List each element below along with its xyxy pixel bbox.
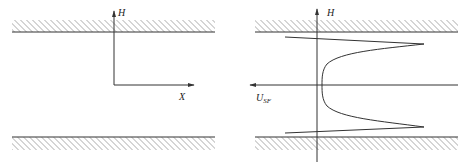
channel-flow-diagram: H X H USF [0, 0, 458, 164]
left-panel: H X [12, 7, 215, 150]
h-axis-label: H [326, 7, 335, 18]
bottom-wall-hatch [12, 137, 215, 150]
right-panel: H USF [250, 7, 458, 162]
velocity-label: USF [256, 92, 272, 105]
velocity-label-subscript: SF [263, 97, 272, 105]
h-axis-label: H [117, 7, 126, 18]
x-axis-label: X [178, 91, 186, 102]
top-wall-hatch [255, 20, 458, 32]
bottom-wall-hatch [255, 137, 458, 150]
